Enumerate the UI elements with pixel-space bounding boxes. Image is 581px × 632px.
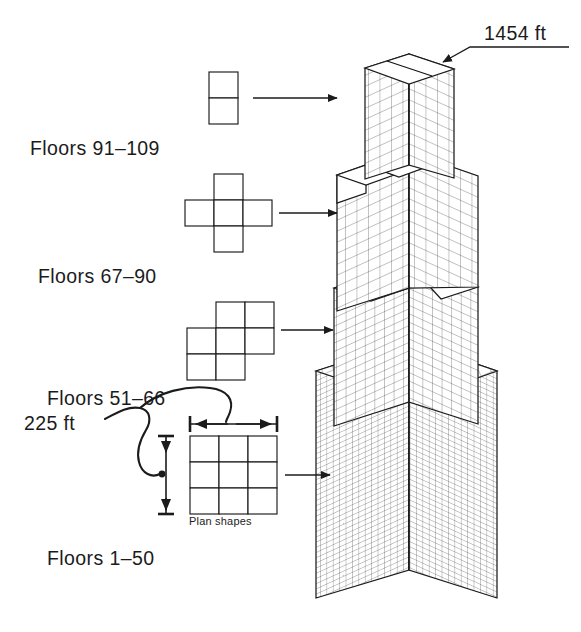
plan-upper-cell — [214, 226, 243, 252]
plan-shape-top — [209, 72, 238, 124]
plan-base-cell — [248, 488, 277, 514]
height-dimension-label: 1454 ft — [484, 22, 547, 44]
plan-mid-cell — [245, 302, 274, 328]
plan-top-floor-label: Floors 91–109 — [30, 137, 160, 159]
plan-base-cell — [190, 462, 219, 488]
plan-base-cell — [219, 462, 248, 488]
tower-top-segment — [365, 54, 454, 179]
width-leader-dot — [159, 471, 166, 478]
plan-mid-cell — [187, 328, 216, 354]
plan-upper-cell — [185, 200, 214, 226]
plan-top-cell — [209, 72, 238, 98]
plan-shape-base — [190, 436, 277, 514]
plan-mid-floor-label: Floors 51–66 — [47, 387, 166, 409]
plan-base-floor-label: Floors 1–50 — [47, 547, 154, 569]
plan-base-cell — [190, 488, 219, 514]
plan-mid-cell — [216, 328, 245, 354]
plan-mid-cell — [187, 354, 216, 380]
plan-upper-cell — [214, 174, 243, 200]
plan-base-cell — [248, 436, 277, 462]
tower-upper-segment — [337, 152, 478, 311]
plan-base-cell — [219, 488, 248, 514]
plan-upper-floor-label: Floors 67–90 — [38, 265, 157, 287]
plan-mid-cell — [245, 328, 274, 354]
plan-mid-cell — [216, 302, 245, 328]
width-dimension-label: 225 ft — [24, 412, 75, 434]
plan-base-cell — [190, 436, 219, 462]
bundled-tube-diagram: Floors 91–109 Floors 67–90 Floors 51–66 — [0, 0, 581, 632]
plan-upper-cell — [243, 200, 272, 226]
figure-canvas: Floors 91–109 Floors 67–90 Floors 51–66 — [0, 0, 581, 632]
plan-shapes-caption: Plan shapes — [189, 515, 252, 527]
plan-base-cell — [248, 462, 277, 488]
plan-upper-cell — [214, 200, 243, 226]
plan-top-cell — [209, 98, 238, 124]
plan-base-cell — [219, 436, 248, 462]
plan-mid-cell — [216, 354, 245, 380]
